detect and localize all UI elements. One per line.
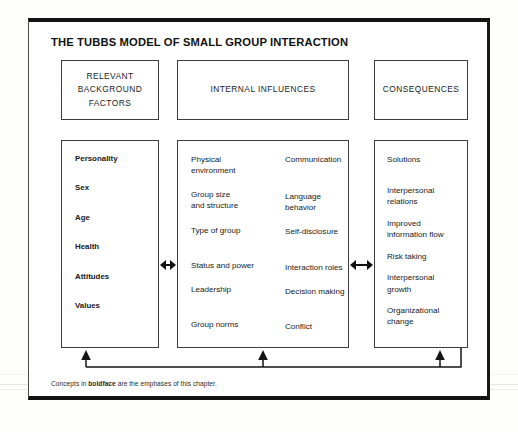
list-item: Interpersonal relations <box>387 185 463 207</box>
double-arrow-icon-left-middle <box>160 259 176 270</box>
item-list-internal-a: Physical environment Group size and stru… <box>191 154 285 343</box>
list-item: Attitudes <box>75 272 158 283</box>
figure-title: THE TUBBS MODEL OF SMALL GROUP INTERACTI… <box>51 36 348 48</box>
list-item: Physical environment <box>191 154 285 176</box>
arrow-head-up-icon <box>258 350 268 360</box>
list-item: Group norms <box>191 319 285 330</box>
item-list: Personality Sex Age Health Attitudes Val… <box>62 141 158 347</box>
header-label: CONSEQUENCES <box>383 83 460 96</box>
item-list: Solutions Interpersonal relations Improv… <box>375 141 467 347</box>
list-item: Language behavior <box>285 191 351 213</box>
scanned-page: THE TUBBS MODEL OF SMALL GROUP INTERACTI… <box>0 0 518 432</box>
list-item: Health <box>75 242 158 253</box>
header-box-internal-influences: INTERNAL INFLUENCES <box>177 60 349 120</box>
list-item: Interaction roles <box>285 262 351 273</box>
list-item: Personality <box>75 154 158 165</box>
list-item: Improved information flow <box>387 218 463 240</box>
list-item: Leadership <box>191 284 285 295</box>
header-box-relevant-background-factors: RELEVANT BACKGROUND FACTORS <box>61 60 159 120</box>
list-item: Organizational change <box>387 305 463 327</box>
list-item: Values <box>75 301 158 312</box>
arrow-head-up-icon <box>81 350 91 360</box>
header-line: FACTORS <box>78 97 143 110</box>
caption-text-bold: boldface <box>88 380 116 387</box>
arrow-head-right-icon <box>367 260 373 270</box>
double-arrow-icon-middle-right <box>350 259 373 270</box>
header-box-consequences: CONSEQUENCES <box>374 60 468 120</box>
header-label: INTERNAL INFLUENCES <box>210 83 315 96</box>
list-item: Interpersonal growth <box>387 272 463 294</box>
figure-caption: Concepts in boldface are the emphases of… <box>51 380 217 387</box>
header-line: BACKGROUND <box>78 83 143 96</box>
list-item: Decision making <box>285 286 351 297</box>
list-item: Age <box>75 213 158 224</box>
figure-frame: THE TUBBS MODEL OF SMALL GROUP INTERACTI… <box>28 18 490 400</box>
item-list-internal-b: Communication Language behavior Self-dis… <box>285 154 351 345</box>
column-internal-influences: Physical environment Group size and stru… <box>177 140 349 348</box>
caption-text-before: Concepts in <box>51 380 88 387</box>
header-line: RELEVANT <box>78 70 143 83</box>
list-item: Risk taking <box>387 251 463 262</box>
list-item: Group size and structure <box>191 189 285 211</box>
list-item: Type of group <box>191 225 285 236</box>
list-item: Sex <box>75 183 158 194</box>
arrow-head-up-icon <box>435 350 445 360</box>
arrow-head-right-icon <box>170 260 176 270</box>
list-item: Status and power <box>191 260 285 271</box>
column-consequences: Solutions Interpersonal relations Improv… <box>374 140 468 348</box>
column-relevant-background-factors: Personality Sex Age Health Attitudes Val… <box>61 140 159 348</box>
list-item: Communication <box>285 154 351 165</box>
caption-text-after: are the emphases of this chapter. <box>116 380 217 387</box>
list-item: Conflict <box>285 321 351 332</box>
list-item: Solutions <box>387 154 463 165</box>
list-item: Self-disclosure <box>285 226 351 237</box>
